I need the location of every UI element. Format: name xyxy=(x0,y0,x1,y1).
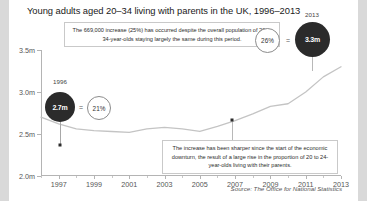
x-tick xyxy=(306,176,307,179)
callout-start-year: 1996 xyxy=(53,78,67,85)
x-tick xyxy=(288,176,289,178)
x-tick xyxy=(165,176,166,179)
callout-start-share: 21% xyxy=(87,96,111,120)
x-tick xyxy=(217,176,218,178)
callout-end-equals: = xyxy=(286,37,290,44)
x-tick xyxy=(323,176,324,178)
chart-figure: Young adults aged 20–34 living with pare… xyxy=(0,0,367,201)
y-tick-label: 2.5m xyxy=(19,130,35,139)
callout-end-share: 26% xyxy=(255,28,280,53)
x-tick xyxy=(129,176,130,179)
callout-start-equals: = xyxy=(79,104,83,111)
callout-end-value: 3.3m xyxy=(295,22,330,57)
x-tick xyxy=(147,176,148,178)
annotation-bottom-stem xyxy=(232,121,233,140)
y-tick-label: 3.0m xyxy=(19,88,35,97)
x-tick xyxy=(270,176,271,179)
x-tick-label: 1999 xyxy=(86,180,102,189)
x-tick-label: 2003 xyxy=(157,180,173,189)
x-tick xyxy=(59,176,60,179)
x-tick xyxy=(112,176,113,178)
annotation-top: The 669,000 increase (25%) has occurred … xyxy=(64,22,280,47)
x-tick xyxy=(94,176,95,179)
x-tick xyxy=(253,176,254,178)
callout-start-marker xyxy=(59,144,62,147)
chart-title: Young adults aged 20–34 living with pare… xyxy=(27,5,300,16)
source-note: Source: The Office for National Statisti… xyxy=(231,185,342,192)
x-tick-label: 2001 xyxy=(121,180,137,189)
x-tick xyxy=(235,176,236,179)
right-edge-band xyxy=(358,0,367,201)
x-tick xyxy=(41,176,42,178)
x-tick-label: 1997 xyxy=(51,180,67,189)
x-tick xyxy=(341,176,342,179)
x-tick-label: 2005 xyxy=(192,180,208,189)
callout-start-leader xyxy=(60,122,61,145)
callout-end-year: 2013 xyxy=(305,11,319,18)
y-tick-label: 2.0m xyxy=(19,172,35,181)
callout-start-value: 2.7m xyxy=(45,92,75,122)
left-edge-band xyxy=(0,0,9,201)
annotation-bottom-marker xyxy=(231,119,234,122)
x-tick xyxy=(182,176,183,178)
x-tick xyxy=(76,176,77,178)
y-tick-label: 3.5m xyxy=(19,46,35,55)
x-tick xyxy=(200,176,201,179)
annotation-bottom: The increase has been sharper since the … xyxy=(162,140,338,174)
annotation-top-stem xyxy=(312,57,313,71)
